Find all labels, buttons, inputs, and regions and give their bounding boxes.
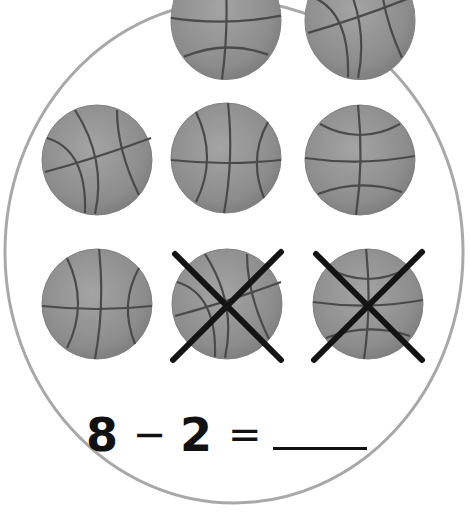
worksheet-canvas (0, 0, 470, 516)
basketball-icon (42, 249, 152, 359)
basketball-icon (171, 0, 281, 79)
basketball-icon (42, 105, 152, 215)
basketball-icon (305, 105, 415, 215)
basketball-icon-crossed (172, 249, 282, 360)
basketball-icon (305, 0, 415, 79)
basketball-icon-crossed (313, 249, 423, 360)
basketball-icon (171, 103, 281, 213)
